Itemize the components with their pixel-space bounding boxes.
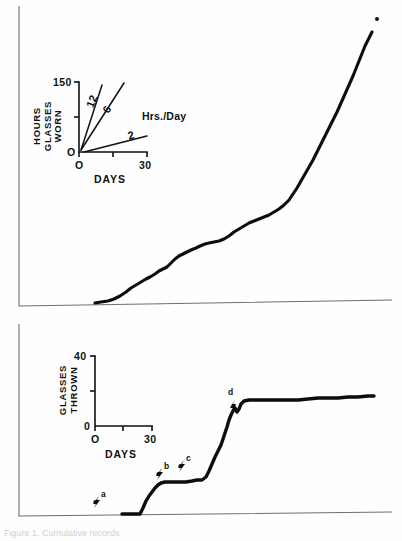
top-ylabel: HOURS GLASSES WORN [32, 82, 64, 170]
bottom-inset-xmin-label: O [91, 434, 100, 445]
event-arrow-b [156, 468, 163, 480]
bottom-inset-ymin-label: 0 [84, 421, 90, 432]
top-final-point [375, 17, 379, 21]
top-rate-label: Hrs./Day [142, 110, 186, 122]
event-label-d: d [228, 388, 233, 397]
bottom-inset-xmax-label: 30 [144, 434, 156, 445]
top-inset-axes [79, 82, 147, 152]
panel-glasses-thrown: GLASSES THROWN 40 0 O 30 DAYS a b c d [0, 320, 402, 520]
top-inset-xmax-label: 30 [139, 160, 151, 171]
top-inset-xlabel: DAYS [94, 174, 126, 185]
figure-container: HOURS GLASSES WORN 150 O O 30 DAYS 12 6 … [0, 0, 402, 541]
event-label-b: b [164, 462, 169, 471]
top-inset-ymin-label: O [67, 147, 76, 158]
event-label-c: c [186, 454, 191, 463]
top-ylabel-line-2: GLASSES [42, 101, 53, 151]
top-cumulative-curve [95, 32, 372, 303]
top-slope-line-2 [84, 136, 147, 152]
event-arrow-a [93, 496, 100, 508]
event-arrow-c [178, 460, 185, 472]
event-label-a: a [101, 490, 106, 499]
panel-hours-glasses-worn: HOURS GLASSES WORN 150 O O 30 DAYS 12 6 … [0, 0, 402, 318]
top-ylabel-line-3: WORN [52, 110, 63, 143]
bottom-ylabel: GLASSES THROWN [58, 352, 79, 428]
bottom-inset-xlabel: DAYS [105, 449, 137, 460]
bottom-cumulative-curve [122, 396, 374, 514]
bottom-inset-axes [95, 356, 152, 426]
top-inset-ymax-label: 150 [53, 77, 72, 88]
top-ylabel-line-1: HOURS [31, 107, 42, 145]
bottom-inset-ymax-label: 40 [74, 351, 86, 362]
top-inset-xmin-label: O [75, 160, 84, 171]
bottom-ylabel-line-1: GLASSES [57, 365, 68, 415]
bottom-ylabel-line-2: THROWN [68, 367, 79, 414]
figure-caption-clipped: Figure 1. Cumulative records [4, 528, 204, 540]
